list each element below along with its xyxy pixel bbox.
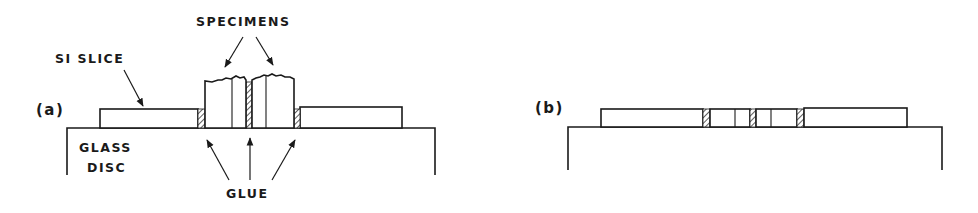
glass-disc-b: [568, 127, 942, 170]
si-slice-label: SI SLICE: [55, 51, 124, 66]
specimens-label: SPECIMENS: [196, 14, 290, 29]
glass-disc-label-line2: DISC: [87, 160, 126, 175]
si-slice-right-b: [804, 108, 907, 127]
glass-disc-label-line1: GLASS: [79, 140, 132, 155]
glue-left-b: [703, 109, 710, 127]
arrow-specimens-to-specimen-2: [256, 37, 273, 65]
arrow-specimens-to-specimen-1: [225, 37, 243, 67]
panel-a: (a) SPECIMENS SI SLICE GLASS DISC GLUE: [36, 14, 435, 201]
specimen-1-b: [710, 109, 750, 127]
panel-b: (b): [535, 99, 942, 170]
arrow-si-slice: [124, 70, 143, 106]
glue-label: GLUE: [226, 186, 268, 201]
glue-center-a: [246, 82, 252, 128]
si-slice-left-a: [100, 109, 198, 128]
glue-right-a: [294, 109, 300, 128]
specimen-1-a: [205, 76, 246, 128]
arrow-glue-left: [207, 140, 229, 180]
arrow-glue-right: [272, 140, 295, 180]
panel-a-label: (a): [36, 101, 64, 119]
si-slice-right-a: [300, 107, 402, 128]
specimen-2-a: [252, 74, 294, 128]
glue-right-b: [797, 109, 804, 127]
specimen-mounting-diagram: (a) SPECIMENS SI SLICE GLASS DISC GLUE: [0, 0, 978, 213]
glue-left-a: [198, 109, 205, 128]
panel-b-label: (b): [535, 99, 564, 117]
specimen-2-b: [756, 109, 797, 127]
glue-center-b: [750, 109, 756, 127]
si-slice-left-b: [601, 109, 703, 127]
